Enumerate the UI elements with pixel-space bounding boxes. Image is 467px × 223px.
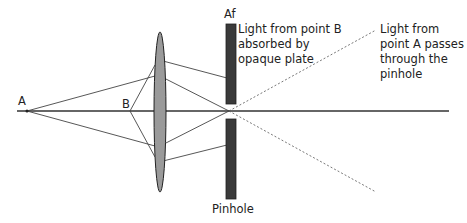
lens (154, 32, 166, 192)
opaque-plate-top (226, 24, 236, 104)
label-aperture: Af (224, 7, 236, 22)
label-point-b: B (122, 97, 130, 112)
ray-b-bottom (130, 111, 155, 157)
note-point-b: Light from point B absorbed by opaque pl… (238, 22, 342, 67)
label-point-a: A (18, 94, 26, 109)
ray-a-bottom (27, 111, 155, 146)
ray-a-top (27, 76, 155, 111)
note-point-a: Light from point A passes through the pi… (380, 22, 464, 82)
ray-b-top (130, 65, 155, 111)
ray-a-dashed-down (229, 111, 376, 192)
opaque-plate-bottom (226, 119, 236, 199)
point-a-dot (26, 110, 29, 113)
label-pinhole: Pinhole (212, 202, 254, 217)
